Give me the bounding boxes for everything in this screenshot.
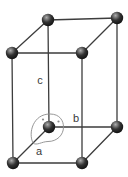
- angle-dot-left: [42, 118, 44, 120]
- axis-label-b: b: [73, 112, 79, 124]
- axis-label-c: c: [37, 74, 43, 86]
- atom-top-front-right: [76, 47, 88, 59]
- atom-bottom-back-right: [111, 121, 123, 133]
- edge-c-axis: [48, 20, 49, 127]
- edge-bottom-right-depth: [82, 127, 117, 163]
- edge-top-right-depth: [82, 18, 117, 53]
- atom-origin: [43, 121, 55, 133]
- atom-top-back-right: [111, 12, 123, 24]
- atom-top-back-left: [42, 14, 54, 26]
- edge-vertical-front-left: [12, 53, 13, 163]
- edge-top-back: [48, 18, 117, 20]
- atom-top-front-left: [6, 47, 18, 59]
- atom-bottom-front-left: [7, 157, 19, 169]
- axis-label-a: a: [36, 145, 43, 157]
- unit-cell-figure: c b a: [0, 0, 128, 177]
- atom-bottom-front-right: [76, 157, 88, 169]
- angle-dot-right: [57, 120, 59, 122]
- unit-cell-drawing: c b a: [0, 0, 128, 177]
- edge-top-left-depth: [12, 20, 48, 53]
